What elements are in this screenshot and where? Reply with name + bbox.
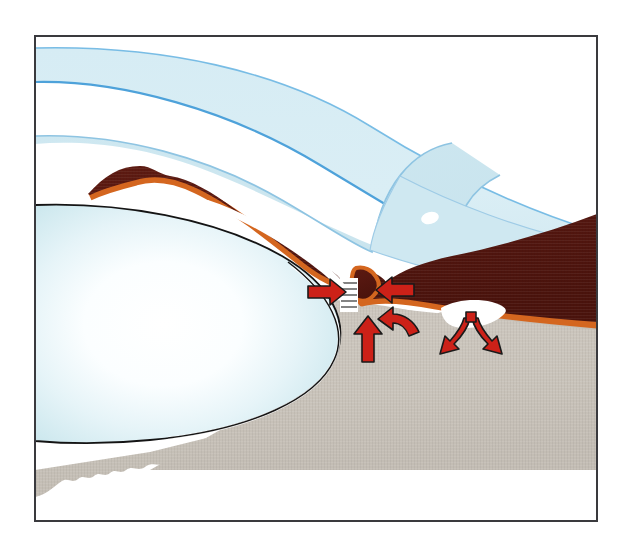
illustration-figure: Anterior chamber angle of the eye — aque… [0, 0, 632, 543]
arrow-collector-stem [466, 312, 476, 322]
eye-angle-diagram: Anterior chamber angle of the eye — aque… [0, 0, 632, 543]
